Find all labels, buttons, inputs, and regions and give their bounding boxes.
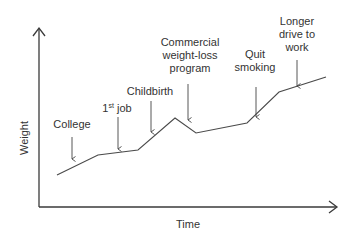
annotation-college: College (53, 118, 90, 159)
annotation-first-job: 1st job (102, 102, 131, 149)
weight-line (57, 77, 326, 175)
annotation-label-line-3: work (284, 41, 309, 53)
annotation-label-line-2: smoking (235, 61, 276, 73)
y-axis-label: Weight (18, 121, 30, 155)
annotation-label: Childbirth (127, 85, 173, 97)
annotation-commercial-weight-loss: Commercial weight-loss program (161, 36, 220, 120)
annotation-label: 1st job (102, 102, 131, 114)
annotation-label-line-2: drive to (279, 28, 315, 40)
x-axis-label: Time (176, 218, 200, 230)
annotation-label: College (53, 118, 90, 130)
annotation-quit-smoking: Quit smoking (235, 48, 276, 117)
annotation-longer-drive: Longer drive to work (279, 15, 315, 86)
annotation-label-line-1: Longer (280, 15, 315, 27)
annotation-label-line-2: weight-loss (161, 49, 218, 61)
annotation-label-line-3: program (170, 62, 211, 74)
annotation-label-line-1: Quit (245, 48, 265, 60)
weight-over-time-diagram: Time Weight College 1st job Childbirth C… (0, 0, 356, 240)
annotation-label-line-1: Commercial (161, 36, 220, 48)
